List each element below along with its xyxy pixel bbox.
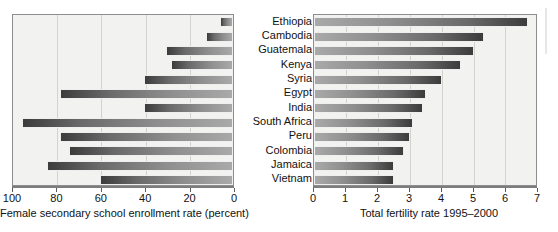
right-bar-row [314, 17, 536, 27]
left-bar-syria [144, 75, 233, 85]
right-bar-colombia [314, 146, 404, 156]
left-bar-row [13, 132, 233, 142]
right-bar-india [314, 103, 423, 113]
right-bar-syria [314, 75, 442, 85]
right-tick-label-6: 6 [502, 192, 508, 204]
right-tick-label-2: 2 [374, 192, 380, 204]
right-bar-cambodia [314, 32, 484, 42]
left-bar-row [13, 146, 233, 156]
left-bar-row [13, 103, 233, 113]
left-bar-vietnam [100, 175, 233, 185]
right-bar-south-africa [314, 118, 413, 128]
right-tick-label-4: 4 [438, 192, 444, 204]
left-bar-row [13, 161, 233, 171]
left-bar-row [13, 75, 233, 85]
right-chart-panel: 01234567 Total fertility rate 1995–2000 [300, 0, 558, 232]
double-bar-chart-figure: 100806040200 Female secondary school enr… [0, 0, 558, 232]
right-bar-egypt [314, 89, 426, 99]
left-bar-row [13, 89, 233, 99]
right-tick-label-5: 5 [470, 192, 476, 204]
scan-edge-artifact [545, 8, 547, 54]
left-bar-row [13, 118, 233, 128]
left-bar-row [13, 32, 233, 42]
right-bar-peru [314, 132, 410, 142]
right-tick-label-1: 1 [342, 192, 348, 204]
right-tick-label-7: 7 [534, 192, 540, 204]
left-tick-label-80: 80 [50, 192, 62, 204]
left-bar-colombia [69, 146, 233, 156]
right-plot-area [313, 14, 537, 186]
left-plot-area [12, 14, 234, 186]
right-bar-row [314, 146, 536, 156]
right-bar-series [314, 15, 536, 185]
left-chart-panel: 100806040200 Female secondary school enr… [0, 0, 240, 232]
right-bar-row [314, 103, 536, 113]
left-tick-label-100: 100 [3, 192, 21, 204]
left-bar-row [13, 46, 233, 56]
left-bar-cambodia [206, 32, 233, 42]
right-bar-row [314, 89, 536, 99]
right-bar-row [314, 161, 536, 171]
left-bar-south-africa [22, 118, 233, 128]
right-bar-row [314, 175, 536, 185]
right-tick-label-0: 0 [310, 192, 316, 204]
left-bar-guatemala [166, 46, 233, 56]
right-bar-guatemala [314, 46, 474, 56]
right-bar-row [314, 132, 536, 142]
left-bar-row [13, 175, 233, 185]
left-tick-label-20: 20 [183, 192, 195, 204]
right-x-axis-title: Total fertility rate 1995–2000 [300, 207, 558, 219]
left-x-axis-line [12, 186, 234, 188]
left-bar-series [13, 15, 233, 185]
left-bar-peru [60, 132, 233, 142]
left-x-axis-title: Female secondary school enrollment rate … [0, 207, 246, 219]
left-bar-row [13, 60, 233, 70]
right-bar-row [314, 46, 536, 56]
left-bar-jamaica [47, 161, 233, 171]
right-bar-row [314, 32, 536, 42]
left-bar-row [13, 17, 233, 27]
right-bar-vietnam [314, 175, 394, 185]
right-tick-label-3: 3 [406, 192, 412, 204]
left-bar-egypt [60, 89, 233, 99]
left-bar-kenya [171, 60, 233, 70]
right-bar-row [314, 118, 536, 128]
right-bar-ethiopia [314, 17, 528, 27]
left-tick-label-60: 60 [95, 192, 107, 204]
left-bar-india [144, 103, 233, 113]
left-tick-label-40: 40 [139, 192, 151, 204]
right-x-axis-line [313, 186, 537, 188]
right-bar-kenya [314, 60, 461, 70]
right-bar-jamaica [314, 161, 394, 171]
right-bar-row [314, 75, 536, 85]
left-bar-ethiopia [220, 17, 233, 27]
right-bar-row [314, 60, 536, 70]
